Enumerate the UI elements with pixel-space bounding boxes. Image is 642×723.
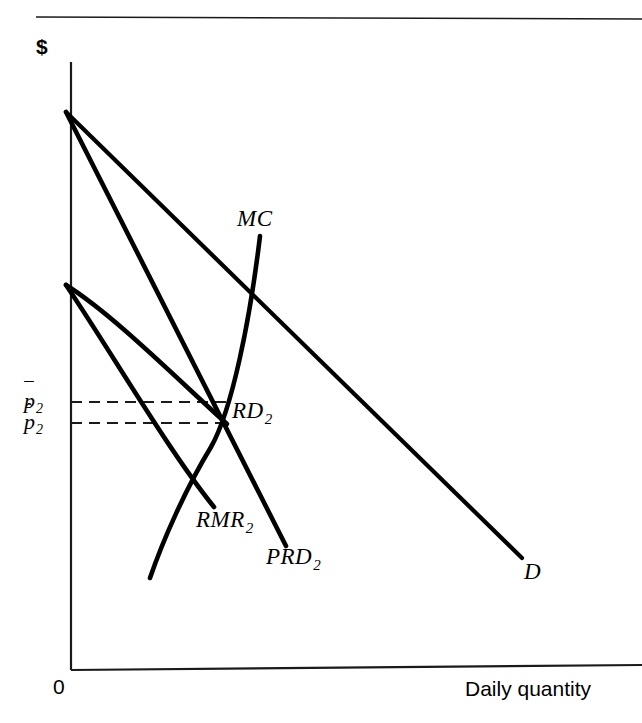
- y-axis-label: $: [36, 36, 48, 57]
- overbar-accent: ¯: [24, 379, 34, 398]
- x-axis-label: Daily quantity: [465, 678, 591, 699]
- curve-label-d-text: D: [524, 559, 541, 584]
- top-rule: [36, 17, 642, 19]
- curve-label-rd2-text: RD: [232, 398, 264, 423]
- curve-label-rmr2: RMR2: [196, 508, 253, 536]
- curve-rd2: [66, 285, 227, 424]
- curve-label-mc: MC: [237, 207, 274, 235]
- origin-label: 0: [53, 676, 65, 697]
- curve-label-mc-text: MC: [237, 206, 273, 231]
- curve-label-rd2-subscript: 2: [264, 411, 273, 427]
- curve-label-rmr2-subscript: 2: [245, 520, 254, 536]
- figure-canvas: [0, 0, 642, 723]
- economics-figure: $ 0 Daily quantity ¯p2 ˆp2 MC RD2 RMR2 P…: [0, 0, 642, 723]
- hat-accent: ˆ: [26, 400, 32, 419]
- curve-rmr2: [66, 285, 214, 507]
- curve-label-d-subscript: [541, 572, 542, 588]
- curve-label-prd2-subscript: 2: [312, 557, 321, 573]
- curve-label-rmr2-text: RMR: [196, 507, 245, 532]
- curve-label-d: D: [524, 560, 542, 588]
- price-label-p-hat-2: ˆp2: [24, 411, 43, 437]
- p-hat-2-subscript: 2: [35, 422, 43, 437]
- curve-label-prd2-text: PRD: [266, 544, 312, 569]
- curve-prd2: [66, 112, 286, 546]
- x-axis-line: [71, 665, 642, 670]
- curve-d: [66, 112, 522, 558]
- p-hat-2-glyph: ˆp: [24, 411, 35, 433]
- curve-label-prd2: PRD2: [266, 545, 321, 573]
- curve-label-rd2: RD2: [232, 399, 272, 427]
- curve-label-mc-subscript: [273, 219, 274, 235]
